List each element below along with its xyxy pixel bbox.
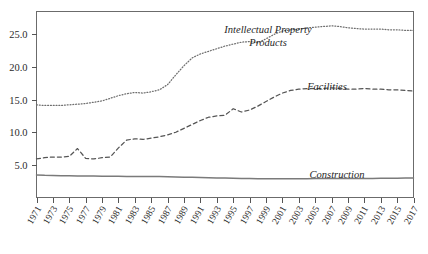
y-tick-label: 20.0 xyxy=(9,62,27,73)
y-tick-label: 10.0 xyxy=(9,127,27,138)
y-tick-label: 25.0 xyxy=(9,29,27,40)
annotation-construction: Construction xyxy=(310,169,365,180)
y-tick-label: 15.0 xyxy=(9,95,27,106)
line-chart: 5.010.015.020.025.0 19711973197519771979… xyxy=(0,0,428,254)
annotation-intellectual-property-products-line2: Products xyxy=(248,37,287,48)
annotation-facilities: Facilities xyxy=(306,81,347,92)
annotation-intellectual-property-products-line1: Intellectual Property xyxy=(223,24,312,35)
y-tick-label: 5.0 xyxy=(14,160,27,171)
chart-container: 5.010.015.020.025.0 19711973197519771979… xyxy=(0,0,428,254)
